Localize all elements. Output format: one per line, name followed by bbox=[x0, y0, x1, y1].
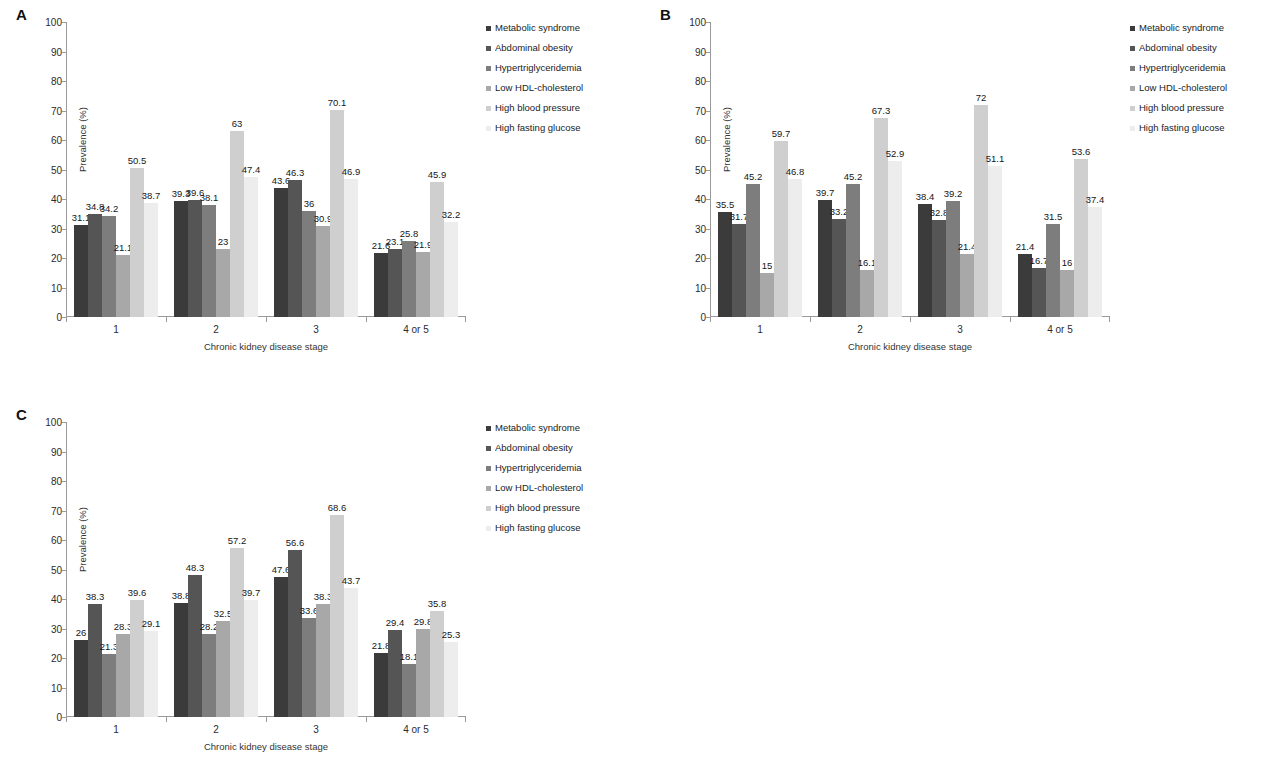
legend-item[interactable]: Low HDL-cholesterol bbox=[486, 78, 631, 98]
bar[interactable]: 35.5 bbox=[718, 212, 732, 317]
bar[interactable]: 34.2 bbox=[102, 216, 116, 317]
bar[interactable]: 53.6 bbox=[1074, 159, 1088, 317]
bar[interactable]: 51.1 bbox=[988, 166, 1002, 317]
legend: Metabolic syndromeAbdominal obesityHyper… bbox=[1130, 18, 1275, 138]
bar[interactable]: 47.4 bbox=[244, 177, 258, 317]
legend-item[interactable]: High fasting glucose bbox=[1130, 118, 1275, 138]
legend-item[interactable]: Low HDL-cholesterol bbox=[486, 478, 631, 498]
bar[interactable]: 39.7 bbox=[244, 600, 258, 717]
legend-item[interactable]: Low HDL-cholesterol bbox=[1130, 78, 1275, 98]
bar[interactable]: 43.7 bbox=[344, 588, 358, 717]
legend-item[interactable]: Hypertriglyceridemia bbox=[486, 58, 631, 78]
legend-item[interactable]: Abdominal obesity bbox=[486, 38, 631, 58]
legend-item[interactable]: High blood pressure bbox=[486, 498, 631, 518]
bar[interactable]: 38.7 bbox=[144, 203, 158, 317]
bar[interactable]: 38.3 bbox=[316, 604, 330, 717]
bar[interactable]: 45.9 bbox=[430, 182, 444, 317]
bar[interactable]: 21.8 bbox=[374, 653, 388, 717]
bar[interactable]: 35.8 bbox=[430, 611, 444, 717]
bar[interactable]: 31.1 bbox=[74, 225, 88, 317]
bar[interactable]: 25.8 bbox=[402, 241, 416, 317]
bar[interactable]: 36 bbox=[302, 211, 316, 317]
bar[interactable]: 57.2 bbox=[230, 548, 244, 717]
bar[interactable]: 70.1 bbox=[330, 110, 344, 317]
bar-cluster: 43.646.33630.970.146.9 bbox=[274, 22, 358, 317]
bar[interactable]: 15 bbox=[760, 273, 774, 317]
bar-cluster: 39.339.638.1236347.4 bbox=[174, 22, 258, 317]
bar[interactable]: 56.6 bbox=[288, 550, 302, 717]
bar[interactable]: 23 bbox=[216, 249, 230, 317]
bar[interactable]: 21.6 bbox=[374, 253, 388, 317]
chart-panel-a: APrevalence (%)010203040506070809010031.… bbox=[8, 4, 628, 364]
bar[interactable]: 47.6 bbox=[274, 577, 288, 717]
bar[interactable]: 33.6 bbox=[302, 618, 316, 717]
bar[interactable]: 39.7 bbox=[818, 200, 832, 317]
x-axis-labels: 1234 or 5 bbox=[66, 724, 466, 735]
bar-group: 39.733.245.216.167.352.9 bbox=[810, 22, 910, 317]
bar-cluster: 21.623.125.821.945.932.2 bbox=[374, 22, 458, 317]
bar[interactable]: 45.2 bbox=[846, 184, 860, 317]
bar[interactable]: 39.6 bbox=[188, 200, 202, 317]
bar[interactable]: 31.7 bbox=[732, 224, 746, 318]
bar[interactable]: 46.9 bbox=[344, 179, 358, 317]
legend-item[interactable]: Metabolic syndrome bbox=[486, 418, 631, 438]
legend-item[interactable]: High blood pressure bbox=[1130, 98, 1275, 118]
bar[interactable]: 39.3 bbox=[174, 201, 188, 317]
bar[interactable]: 38.1 bbox=[202, 205, 216, 317]
bar[interactable]: 46.3 bbox=[288, 180, 302, 317]
bar[interactable]: 21.9 bbox=[416, 252, 430, 317]
bar[interactable]: 34.8 bbox=[88, 214, 102, 317]
legend-swatch-icon bbox=[1130, 66, 1135, 71]
bar[interactable]: 16.1 bbox=[860, 270, 874, 317]
bar[interactable]: 25.3 bbox=[444, 642, 458, 717]
bar[interactable]: 21.3 bbox=[102, 654, 116, 717]
bar[interactable]: 28.3 bbox=[116, 634, 130, 717]
bar[interactable]: 16.7 bbox=[1032, 268, 1046, 317]
bar[interactable]: 32.8 bbox=[932, 220, 946, 317]
bar[interactable]: 45.2 bbox=[746, 184, 760, 317]
bar[interactable]: 52.9 bbox=[888, 161, 902, 317]
bar[interactable]: 72 bbox=[974, 105, 988, 317]
bar[interactable]: 38.8 bbox=[174, 603, 188, 717]
legend-item[interactable]: Metabolic syndrome bbox=[1130, 18, 1275, 38]
bar[interactable]: 23.1 bbox=[388, 249, 402, 317]
bar[interactable]: 29.8 bbox=[416, 629, 430, 717]
bar[interactable]: 38.4 bbox=[918, 204, 932, 317]
bar[interactable]: 31.5 bbox=[1046, 224, 1060, 317]
bar[interactable]: 38.3 bbox=[88, 604, 102, 717]
legend-item[interactable]: Metabolic syndrome bbox=[486, 18, 631, 38]
legend-item[interactable]: High blood pressure bbox=[486, 98, 631, 118]
bar[interactable]: 26 bbox=[74, 640, 88, 717]
bar[interactable]: 46.8 bbox=[788, 179, 802, 317]
bar[interactable]: 37.4 bbox=[1088, 207, 1102, 317]
bar[interactable]: 39.2 bbox=[946, 201, 960, 317]
bar-slot: 39.6 bbox=[130, 422, 144, 717]
bar[interactable]: 32.2 bbox=[444, 222, 458, 317]
bar[interactable]: 16 bbox=[1060, 270, 1074, 317]
legend-item[interactable]: High fasting glucose bbox=[486, 518, 631, 538]
bar[interactable]: 68.6 bbox=[330, 515, 344, 717]
legend-item[interactable]: Hypertriglyceridemia bbox=[486, 458, 631, 478]
bar[interactable]: 48.3 bbox=[188, 575, 202, 717]
legend-item[interactable]: Abdominal obesity bbox=[486, 438, 631, 458]
legend-item[interactable]: Hypertriglyceridemia bbox=[1130, 58, 1275, 78]
bar-slot: 48.3 bbox=[188, 422, 202, 717]
chart-panel-b: BPrevalence (%)010203040506070809010035.… bbox=[652, 4, 1272, 364]
bar-slot: 47.4 bbox=[244, 22, 258, 317]
bar[interactable]: 18.1 bbox=[402, 664, 416, 717]
bar[interactable]: 33.2 bbox=[832, 219, 846, 317]
y-axis-tick-label: 80 bbox=[51, 76, 62, 87]
bar[interactable]: 32.5 bbox=[216, 621, 230, 717]
bar[interactable]: 29.1 bbox=[144, 631, 158, 717]
bar[interactable]: 43.6 bbox=[274, 188, 288, 317]
bar[interactable]: 21.1 bbox=[116, 255, 130, 317]
bar[interactable]: 63 bbox=[230, 131, 244, 317]
panel-letter: A bbox=[16, 6, 27, 23]
bar[interactable]: 30.9 bbox=[316, 226, 330, 317]
bar[interactable]: 21.4 bbox=[960, 254, 974, 317]
bar[interactable]: 28.2 bbox=[202, 634, 216, 717]
bar[interactable]: 29.4 bbox=[388, 630, 402, 717]
legend-item[interactable]: Abdominal obesity bbox=[1130, 38, 1275, 58]
legend-item[interactable]: High fasting glucose bbox=[486, 118, 631, 138]
bar-value-label: 52.9 bbox=[886, 148, 905, 159]
